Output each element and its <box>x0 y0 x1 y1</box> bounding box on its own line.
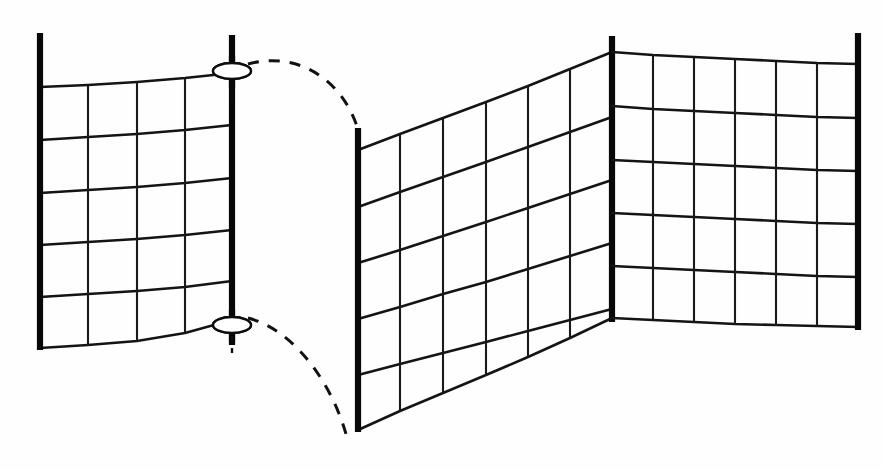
fence-diagram-figure: Hinged wire mesh fence panel assembly Is… <box>0 0 882 470</box>
hinge-ring-top-outline <box>213 63 251 79</box>
drawing-background <box>0 0 882 470</box>
fence-assembly-drawing: Hinged wire mesh fence panel assembly Is… <box>0 0 882 470</box>
hinge-ring-bottom-outline <box>213 317 251 333</box>
